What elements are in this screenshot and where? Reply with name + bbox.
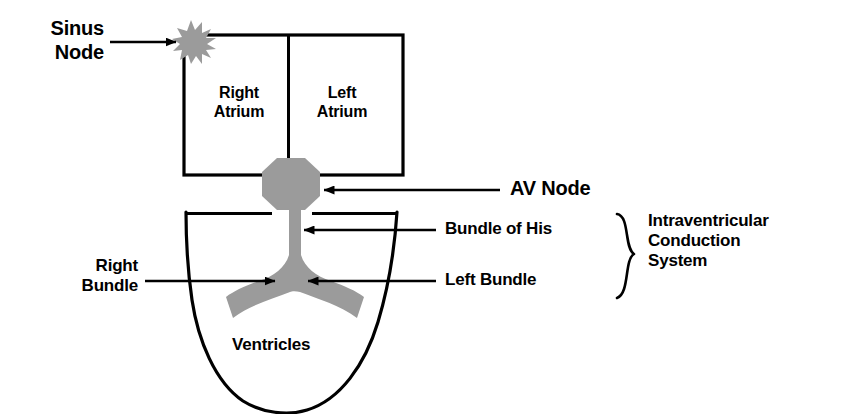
av-node-label: AV Node	[510, 177, 590, 201]
bundle-of-his-label: Bundle of His	[445, 219, 552, 239]
right-atrium-label: Right Atrium	[196, 84, 282, 122]
left-bundle-label: Left Bundle	[445, 270, 536, 290]
left-atrium-label: Left Atrium	[299, 84, 385, 122]
conduction-tissue-group	[172, 20, 364, 318]
av-node	[262, 158, 320, 210]
sinus-node	[172, 20, 216, 64]
right-bundle-label: Right Bundle	[0, 256, 138, 296]
intraventricular-brace-group	[617, 214, 634, 298]
diagram-canvas: Sinus Node Right Atrium Left Atrium AV N…	[0, 0, 848, 414]
cardiac-conduction-diagram	[0, 0, 848, 414]
sinus-node-label: Sinus Node	[0, 17, 104, 64]
curly-brace-icon	[617, 214, 634, 298]
intraventricular-conduction-system-label: Intraventricular Conduction System	[648, 211, 769, 271]
ventricles-label: Ventricles	[232, 335, 310, 355]
